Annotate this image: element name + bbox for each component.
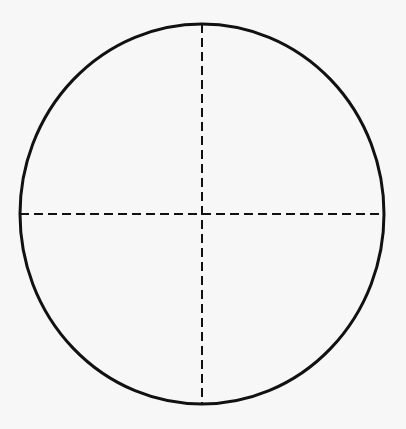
- diagram-canvas: [0, 0, 406, 429]
- diagram-svg: [0, 0, 406, 429]
